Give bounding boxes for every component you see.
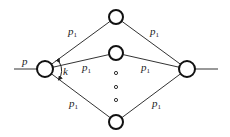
middle-node-middle	[109, 46, 123, 60]
sink-node	[179, 61, 195, 77]
ellipsis-dot	[114, 85, 117, 88]
source-node	[37, 61, 53, 77]
middle-node-bottom	[109, 115, 123, 129]
edge-label-top-right: p1	[149, 25, 160, 39]
edge-label-middle-right: p1	[140, 61, 151, 75]
edge-label-bottom-right: p1	[151, 97, 162, 111]
input-label: p	[21, 55, 28, 67]
middle-node-top	[109, 10, 123, 24]
parallel-network-diagram: p k p1 p1 p1 p1 p1 p1	[0, 0, 230, 137]
ellipsis-dot	[114, 71, 117, 74]
angle-label: k	[63, 65, 69, 77]
edge-bottom-to-sink	[116, 69, 187, 122]
edge-label-middle-left: p1	[81, 61, 92, 75]
edge-label-bottom-left: p1	[68, 97, 79, 111]
edge-label-top-left: p1	[67, 25, 78, 39]
ellipsis-dot	[114, 98, 117, 101]
edge-source-to-bottom	[45, 69, 116, 122]
